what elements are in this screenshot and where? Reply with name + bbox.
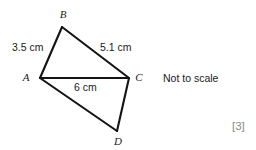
not-to-scale-note: Not to scale	[163, 72, 219, 84]
vertex-label-D: D	[113, 135, 122, 147]
edge-DC	[117, 78, 129, 131]
geometry-figure: B A C D 3.5 cm 5.1 cm 6 cm Not to scale …	[0, 0, 256, 150]
vertex-label-C: C	[135, 71, 143, 83]
diagram-canvas: B A C D 3.5 cm 5.1 cm 6 cm Not to scale …	[0, 0, 256, 150]
vertex-label-B: B	[60, 8, 67, 20]
vertex-label-A: A	[22, 71, 30, 83]
length-label-AC: 6 cm	[74, 81, 97, 93]
marks-allocation: [3]	[232, 120, 245, 132]
length-label-AB: 3.5 cm	[12, 41, 44, 53]
length-label-BC: 5.1 cm	[100, 41, 132, 53]
